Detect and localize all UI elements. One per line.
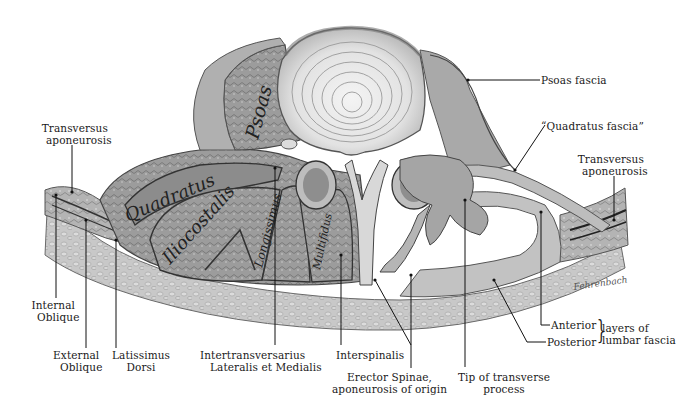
label-psoas-fascia: Psoas fascia: [541, 74, 607, 86]
psoas-fascia-sheet: [420, 50, 510, 170]
label-external-oblique: External Oblique: [50, 349, 102, 373]
label-tip-of-transverse-process: Tip of transverse process: [458, 371, 550, 395]
label-transversus-aponeurosis-left: Transversus aponeurosis: [38, 122, 112, 146]
label-internal-oblique: Internal Oblique: [27, 299, 79, 323]
label-quadratus-fascia: “Quadratus fascia”: [541, 120, 644, 132]
label-interspinalis: Interspinalis: [336, 349, 404, 361]
label-latissimus-dorsi: Latissimus Dorsi: [112, 349, 170, 373]
label-lumbar-fascia-layers: layers of lumbar fascia: [602, 322, 676, 346]
label-posterior: Posterior: [547, 336, 596, 348]
label-intertransversarius: Intertransversarius Lateralis et Mediali…: [200, 349, 322, 373]
label-transversus-aponeurosis-right: Transversus aponeurosis: [574, 153, 648, 177]
vessel: [281, 139, 297, 149]
label-erector-spinae: Erector Spinae, aponeurosis of origin: [332, 371, 447, 395]
label-anterior: Anterior: [551, 319, 596, 331]
